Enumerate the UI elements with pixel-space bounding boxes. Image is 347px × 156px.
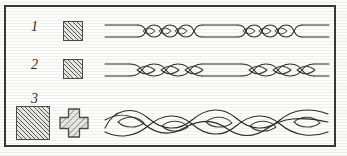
figure-plate: 1	[0, 0, 347, 156]
marker-hatched-square-row3	[16, 106, 50, 140]
row-label-3: 3	[31, 92, 38, 106]
row-label-1: 1	[31, 20, 38, 34]
marker-hatched-square-row1	[63, 21, 83, 41]
motif-three-strand-braid-row3	[104, 98, 330, 144]
row-label-2: 2	[31, 58, 38, 72]
marker-hatched-cross-row3	[58, 107, 90, 139]
motif-twisted-cord-row1	[104, 16, 330, 46]
marker-hatched-square-row2	[63, 59, 83, 79]
motif-twisted-cord-row2	[104, 55, 330, 85]
